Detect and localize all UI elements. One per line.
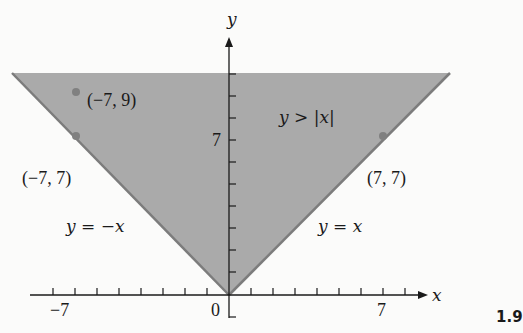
- y-tick-label-7: 7: [212, 130, 221, 150]
- x-tick-label-neg7: −7: [50, 300, 69, 320]
- point-neg7-9: [72, 88, 80, 96]
- point-label-7-7: (7, 7): [367, 168, 406, 189]
- line-label-y-neg-x: y = −x: [65, 216, 125, 236]
- point-neg7-7: [72, 132, 80, 140]
- point-label-neg7-7: (−7, 7): [22, 168, 71, 189]
- region-label: y > |x|: [278, 107, 335, 127]
- x-axis-arrow-icon: [418, 291, 428, 299]
- point-label-neg7-9: (−7, 9): [87, 90, 136, 111]
- y-axis-label: y: [226, 9, 237, 29]
- x-tick-label-7: 7: [377, 300, 386, 320]
- origin-label: 0: [211, 300, 220, 320]
- line-label-y-x: y = x: [317, 216, 363, 236]
- inequality-figure: y x 0 −7 7 7 (−7, 9) (−7, 7) (7, 7) y > …: [0, 0, 523, 333]
- x-axis-label: x: [432, 285, 442, 305]
- y-axis-arrow-icon: [225, 37, 233, 47]
- figure-number: 1.9: [496, 308, 523, 326]
- point-7-7: [379, 132, 387, 140]
